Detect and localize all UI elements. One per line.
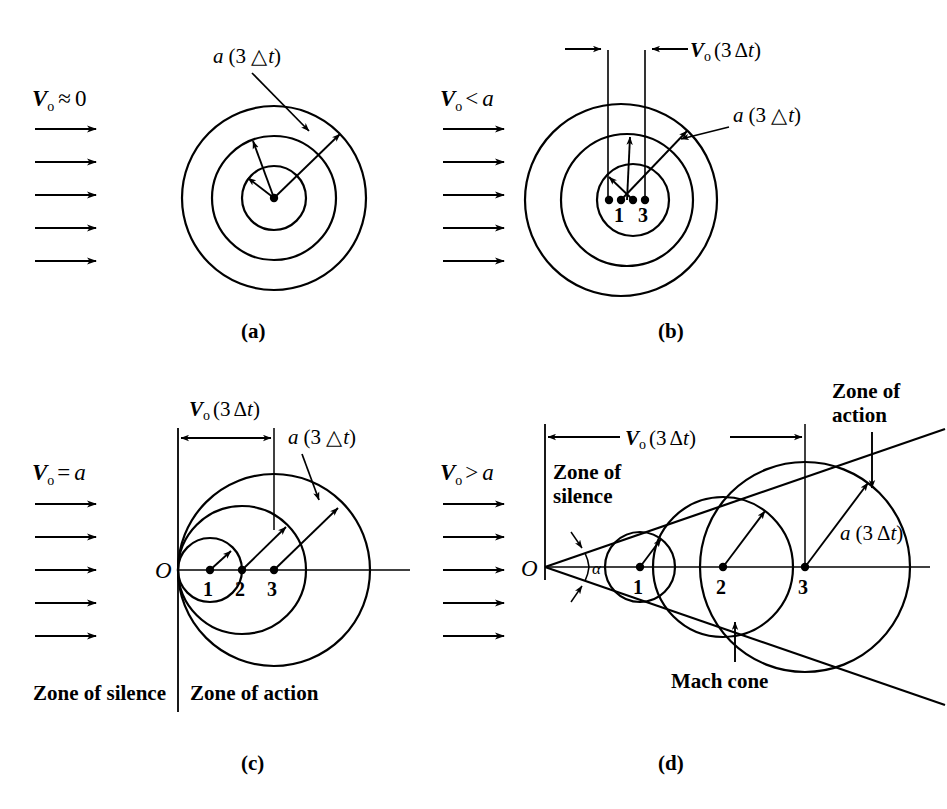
figure-canvas: Vo≈0 a(3△t) (a) — [0, 0, 947, 809]
source-point — [605, 196, 613, 204]
panel-d-point-label-1: 1 — [633, 576, 643, 598]
panel-c-zone-of-action: Zone of action — [190, 681, 319, 705]
panel-d-zone-of-silence-line2: silence — [553, 484, 612, 508]
panel-b-caption: (b) — [658, 319, 684, 343]
panel-c-zone-of-silence: Zone of silence — [33, 681, 166, 705]
panel-d-mach-angle-label: α — [592, 559, 602, 578]
panel-d-zone-of-silence-line1: Zone of — [553, 460, 622, 484]
panel-d-caption: (d) — [658, 751, 684, 775]
panel-c-velocity-label: Vo=a — [32, 460, 86, 488]
panel-d-point-label-3: 3 — [798, 576, 808, 598]
panel-c-point-label-2: 2 — [235, 578, 245, 600]
panel-d-mach-cone-label: Mach cone — [671, 669, 768, 693]
panel-a-caption: (a) — [241, 319, 266, 343]
panel-c-caption: (c) — [241, 751, 264, 775]
panel-b-point-label-1: 1 — [614, 204, 624, 226]
panel-d-annotation-v3dt: Vo(3Δt) — [625, 426, 696, 452]
panel-b-annotation-v3dt: Vo(3Δt) — [690, 38, 761, 64]
panel-b-point-label-3: 3 — [638, 204, 648, 226]
source-point-3 — [641, 196, 649, 204]
panel-c-annotation-v3dt: Vo(3Δt) — [189, 397, 260, 423]
panel-d-velocity-label: Vo>a — [440, 460, 494, 488]
mach-cone-figure: Vo≈0 a(3△t) (a) — [0, 0, 947, 809]
panel-d-zone-of-action-line1: Zone of — [832, 379, 901, 403]
panel-a-velocity-label: Vo≈0 — [32, 86, 86, 114]
panel-d-origin-label: O — [521, 556, 538, 581]
panel-d-zone-of-action-line2: action — [832, 403, 887, 427]
panel-d-annotation-a3dt: a(3Δt) — [840, 521, 903, 545]
panel-c-origin-label: O — [155, 558, 172, 583]
panel-c-point-label-3: 3 — [267, 578, 277, 600]
panel-b-velocity-label: Vo<a — [440, 86, 494, 114]
panel-d-point-label-2: 2 — [716, 576, 726, 598]
panel-c-point-label-1: 1 — [203, 578, 213, 600]
